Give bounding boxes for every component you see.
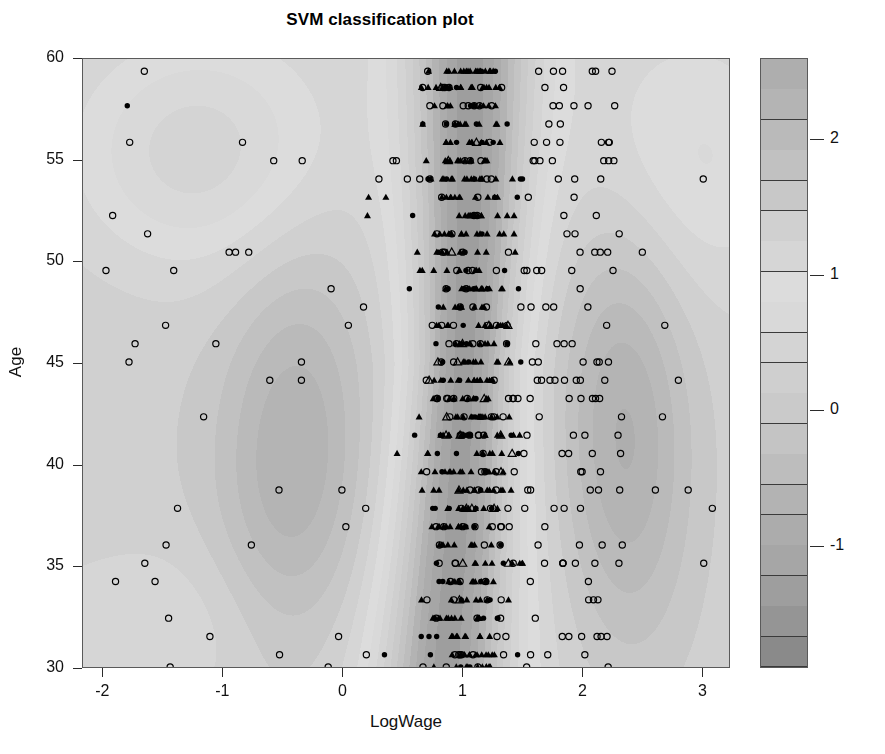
colorbar-band [761, 363, 807, 394]
y-axis-tick [73, 160, 82, 161]
x-axis-tick-label: 0 [312, 682, 372, 700]
y-axis-tick-label: 40 [12, 455, 64, 473]
colorbar-tick [810, 546, 824, 547]
x-axis-tick [582, 668, 583, 677]
y-axis-tick [73, 58, 82, 59]
colorbar-tick [810, 139, 824, 140]
y-axis-tick [73, 465, 82, 466]
colorbar-band [761, 89, 807, 120]
plot-panel [82, 58, 730, 668]
colorbar-band [761, 485, 807, 516]
x-axis-tick-label: 1 [432, 682, 492, 700]
y-axis-tick-label: 55 [12, 150, 64, 168]
y-axis-tick [73, 668, 82, 669]
colorbar-band [761, 393, 807, 424]
colorbar-tick-label: 1 [830, 265, 839, 283]
svm-classification-plot: SVM classification plot 30354045505560-2… [0, 0, 885, 754]
y-axis-tick [73, 363, 82, 364]
colorbar-band [761, 454, 807, 485]
colorbar-band [761, 424, 807, 455]
colorbar-tick [810, 410, 824, 411]
x-axis-tick [342, 668, 343, 677]
colorbar-band [761, 545, 807, 576]
x-axis-label: LogWage [82, 712, 730, 732]
colorbar-tick-label: -1 [830, 536, 844, 554]
x-axis-tick [102, 668, 103, 677]
colorbar-tick-label: 0 [830, 400, 839, 418]
y-axis-tick-label: 60 [12, 48, 64, 66]
y-axis-tick [73, 566, 82, 567]
x-axis-tick [702, 668, 703, 677]
colorbar-band [761, 181, 807, 212]
x-axis-tick [462, 668, 463, 677]
colorbar-band [761, 515, 807, 546]
y-axis-tick [73, 261, 82, 262]
page-title: SVM classification plot [0, 10, 760, 30]
colorbar-band [761, 150, 807, 181]
colorbar-band [761, 59, 807, 90]
colorbar-tick [810, 275, 824, 276]
x-axis-tick [222, 668, 223, 677]
data-point-scatter [83, 59, 730, 668]
colorbar-band [761, 272, 807, 303]
colorbar-band [761, 241, 807, 272]
colorbar-band [761, 211, 807, 242]
colorbar-band [761, 302, 807, 333]
colorbar-band [761, 576, 807, 607]
x-axis-tick-label: 2 [552, 682, 612, 700]
colorbar-band [761, 333, 807, 364]
x-axis-tick-label: -1 [192, 682, 252, 700]
y-axis-tick-label: 35 [12, 556, 64, 574]
x-axis-tick-label: 3 [672, 682, 732, 700]
y-axis-label: Age [6, 332, 26, 392]
colorbar-band [761, 606, 807, 637]
x-axis-tick-label: -2 [72, 682, 132, 700]
colorbar-tick-label: 2 [830, 129, 839, 147]
colorbar-band [761, 120, 807, 151]
colorbar-legend [760, 58, 808, 668]
colorbar-band [761, 637, 807, 668]
y-axis-tick-label: 30 [12, 658, 64, 676]
y-axis-tick-label: 50 [12, 251, 64, 269]
